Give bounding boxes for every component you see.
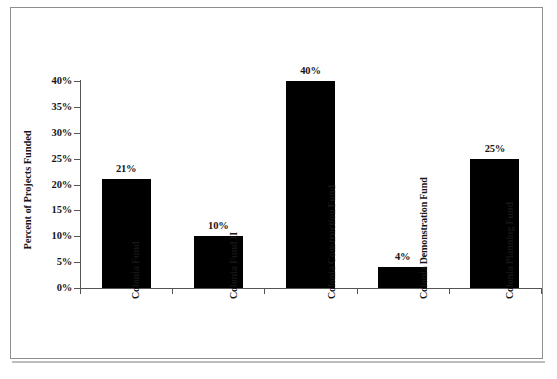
y-tick-label-wrap: 30% bbox=[14, 128, 72, 138]
chart-figure: Percent of Projects Funded 0%5%10%15%20%… bbox=[0, 0, 557, 379]
y-tick-label-wrap: 10% bbox=[14, 231, 72, 241]
x-category-label-line: Planning Fund bbox=[504, 200, 516, 264]
x-category-label-line: Colonia bbox=[504, 264, 516, 299]
y-tick-label-wrap: 25% bbox=[14, 154, 72, 164]
y-tick-mark bbox=[74, 107, 81, 108]
y-tick-label: 25% bbox=[26, 154, 72, 164]
y-tick-label-wrap: 20% bbox=[14, 180, 72, 190]
y-tick-label-wrap: 35% bbox=[14, 102, 72, 112]
y-tick-label: 20% bbox=[26, 180, 72, 190]
y-tick-label: 40% bbox=[26, 76, 72, 86]
y-tick-mark bbox=[74, 185, 81, 186]
y-tick-mark bbox=[74, 236, 81, 237]
x-category-label-line: Colonia bbox=[326, 264, 338, 299]
y-tick-label: 15% bbox=[26, 205, 72, 215]
x-category-label-line: Construction bbox=[326, 207, 338, 264]
x-tick-mark bbox=[264, 288, 265, 294]
x-category-label-line: Fund bbox=[418, 175, 430, 199]
figure-border-shadow bbox=[12, 361, 545, 363]
y-tick-label: 30% bbox=[26, 128, 72, 138]
x-axis-end-tick bbox=[541, 288, 542, 294]
y-tick-mark bbox=[74, 133, 81, 134]
x-category-label-line: Colonia Fund bbox=[228, 240, 240, 299]
y-tick-label-wrap: 5% bbox=[14, 257, 72, 267]
x-tick-mark bbox=[172, 288, 173, 294]
y-tick-mark bbox=[74, 262, 81, 263]
x-tick-mark bbox=[449, 288, 450, 294]
x-category-label: Colonia FundII bbox=[228, 230, 242, 299]
x-category-label: ColoniaConstructionFund bbox=[326, 183, 340, 299]
bar-value-label: 21% bbox=[96, 163, 156, 174]
y-tick-label: 0% bbox=[26, 283, 72, 293]
x-axis-end-tick bbox=[80, 288, 81, 294]
figure-border bbox=[10, 7, 543, 359]
x-category-label: ColoniaPlanning Fund bbox=[504, 200, 518, 299]
x-category-label-line: II bbox=[228, 230, 240, 240]
x-tick-mark bbox=[357, 288, 358, 294]
y-tick-label-wrap: 0% bbox=[14, 283, 72, 293]
y-tick-label: 5% bbox=[26, 257, 72, 267]
x-category-label: Colonia Fund bbox=[130, 240, 144, 299]
x-axis-line bbox=[80, 288, 542, 289]
y-tick-mark bbox=[74, 81, 81, 82]
y-tick-mark bbox=[74, 159, 81, 160]
y-tick-label: 35% bbox=[26, 102, 72, 112]
y-tick-label-wrap: 15% bbox=[14, 205, 72, 215]
x-category-label-line: Colonia bbox=[418, 264, 430, 299]
y-tick-mark bbox=[74, 210, 81, 211]
y-tick-label: 10% bbox=[26, 231, 72, 241]
x-category-label: ColoniaDemonstrationFund bbox=[418, 175, 432, 299]
bar-value-label: 25% bbox=[465, 143, 525, 154]
x-category-label-line: Demonstration bbox=[418, 200, 430, 265]
y-tick-label-wrap: 40% bbox=[14, 76, 72, 86]
x-category-label-line: Fund bbox=[326, 183, 338, 207]
bar-value-label: 40% bbox=[281, 65, 341, 76]
x-category-label-line: Colonia Fund bbox=[130, 240, 142, 299]
